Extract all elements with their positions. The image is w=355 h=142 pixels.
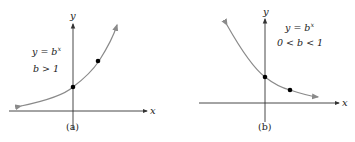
caption-b: (b) xyxy=(258,121,272,132)
equation-label: y = bx xyxy=(284,21,314,33)
condition-label: b > 1 xyxy=(33,63,59,74)
equation-label: y = bx xyxy=(31,45,61,57)
point-on-curve xyxy=(96,59,101,64)
exponential-graphs-figure: x y y = bx b > 1 (a) x y y = bx 0 < b < … xyxy=(0,0,355,142)
y-axis-label: y xyxy=(69,10,76,21)
y-axis-label: y xyxy=(262,6,269,17)
decay-curve xyxy=(227,25,318,97)
condition-label: 0 < b < 1 xyxy=(277,37,323,48)
panel-a: x y y = bx b > 1 (a) xyxy=(9,10,156,132)
point-on-curve xyxy=(288,88,293,93)
point-y-intercept xyxy=(263,75,268,80)
caption-a: (a) xyxy=(66,121,79,132)
point-y-intercept xyxy=(71,85,76,90)
panel-b: x y y = bx 0 < b < 1 (b) xyxy=(199,6,348,132)
x-axis-label: x xyxy=(150,105,156,116)
x-axis-label: x xyxy=(342,97,348,108)
